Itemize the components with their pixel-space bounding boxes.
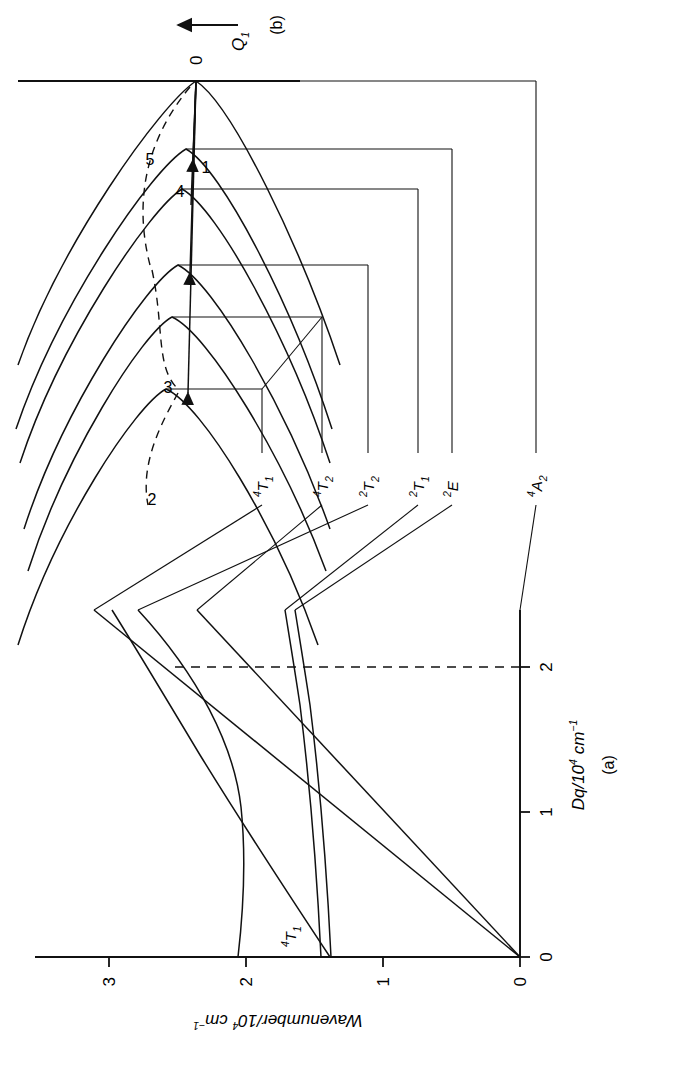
leader-2T2 [138, 505, 368, 610]
transition-label-1: 1 [202, 159, 211, 176]
curve-4T1P [112, 610, 330, 957]
transition-label-2-group: 2 [148, 491, 157, 508]
state-label-2T2: 2T2 [357, 476, 381, 498]
transition-arrow-5 [143, 87, 190, 265]
state-label-sup: 2 [441, 491, 453, 498]
state-label-sup: 4 [251, 491, 263, 497]
y-title-unit-exp: −1 [193, 1020, 205, 1032]
panel-a-label-sup: 4 [279, 941, 291, 947]
panel-a-x-axis-title: Dq/104 cm−1 [567, 720, 588, 811]
panel-a-label-sub: 1 [291, 926, 303, 932]
curve-2T2 [138, 610, 244, 957]
transition-arrow-3-dash [152, 270, 176, 387]
state-label-sup: 4 [525, 491, 537, 497]
transition-label-4: 4 [176, 183, 185, 200]
transition-label-4-group: 4 [176, 183, 185, 200]
state-label-2T1: 2T1 [407, 476, 431, 498]
x-title-exp: 4 [567, 759, 579, 765]
parabola-4T2 [28, 317, 326, 571]
state-label-sup: 2 [407, 491, 419, 498]
y-ticklabel-1: 1 [374, 977, 393, 986]
state-label-sub: 1 [263, 476, 275, 482]
transition-label-5: 5 [146, 151, 155, 168]
y-ticklabel-2: 2 [237, 977, 256, 986]
panel-a-curve-label-4T1: 4T1 [279, 926, 303, 947]
svg-text:4A2: 4A2 [525, 475, 549, 497]
curve-4T2 [197, 610, 520, 957]
transition-arrow-2-dash [146, 393, 178, 505]
state-label-letter: A [528, 481, 545, 492]
panel-b-q-axis-label: Q1 [178, 25, 251, 51]
state-label-2E: 2E [441, 480, 461, 498]
state-label-column: 4T1 4T2 2T2 2T1 [94, 81, 549, 610]
leader-4A2 [520, 505, 536, 610]
x-title-unit-exp: −1 [567, 720, 579, 732]
q-letter: Q [229, 38, 248, 51]
state-label-4A2: 4A2 [525, 475, 549, 497]
svg-text:Wavenumber/104 cm−1: Wavenumber/104 cm−1 [193, 1011, 363, 1032]
state-label-sub: 2 [537, 475, 549, 482]
parabola-2T1 [20, 189, 330, 463]
leader-4T1 [94, 505, 262, 610]
y-ticklabel-3: 3 [100, 977, 119, 986]
curve-2E [295, 610, 331, 957]
panel-a: 4T1 0 1 2 3 0 1 2 Wavenumber/104 cm−1 [35, 610, 617, 1032]
transition-label-5-group: 5 [146, 151, 155, 168]
x-title-unit: cm [569, 732, 588, 755]
figure-svg: 4T1 0 1 2 3 0 1 2 Wavenumber/104 cm−1 [0, 0, 689, 1065]
state-label-sub: 2 [369, 476, 381, 483]
panel-b-caption: (b) [268, 15, 285, 35]
leader-2E [295, 505, 452, 610]
state-label-4T1: 4T1 [251, 476, 275, 497]
curve-4T1F [94, 610, 520, 957]
transition-label-3: 3 [164, 379, 173, 396]
x-ticklabel-2: 2 [537, 662, 556, 671]
leader-4T2 [197, 505, 322, 610]
panel-b-origin-label: 0 [187, 56, 206, 65]
panel-a-caption: (a) [600, 755, 617, 775]
q-sub: 1 [239, 32, 251, 38]
state-label-letter: E [444, 480, 461, 491]
svg-text:2T1: 2T1 [407, 476, 431, 498]
y-title-unit: cm [205, 1011, 228, 1030]
y-ticklabel-0: 0 [511, 977, 530, 986]
svg-text:2E: 2E [441, 480, 461, 498]
parabola-2E [16, 149, 332, 429]
parabola-4T1 [18, 389, 318, 645]
x-ticklabel-1: 1 [537, 807, 556, 816]
rotated-figure-wrapper: 4T1 0 1 2 3 0 1 2 Wavenumber/104 cm−1 [0, 0, 689, 1065]
x-ticklabel-0: 0 [537, 952, 556, 961]
connector-bend-4T2 [262, 317, 322, 389]
transition-label-2: 2 [148, 491, 157, 508]
state-label-sub: 2 [323, 476, 335, 483]
state-label-sub: 1 [419, 476, 431, 482]
x-title-text: Dq/10 [569, 764, 588, 810]
panel-b-q-label: Q1 [229, 32, 251, 51]
svg-text:4T1: 4T1 [251, 476, 275, 497]
panel-b: 2 3 4 5 1 0 Q1 [16, 15, 340, 645]
figure-canvas: 4T1 0 1 2 3 0 1 2 Wavenumber/104 cm−1 [0, 0, 689, 1065]
svg-text:2T2: 2T2 [357, 476, 381, 498]
panel-a-y-axis-title: Wavenumber/104 cm−1 [193, 1011, 363, 1032]
transition-label-3-group: 3 [164, 379, 173, 396]
leader-2T1 [285, 505, 418, 610]
state-label-sup: 2 [357, 491, 369, 498]
y-title-text: Wavenumber/10 [238, 1011, 363, 1030]
transition-label-1-group: 1 [202, 159, 211, 176]
svg-text:4T1: 4T1 [279, 926, 303, 947]
